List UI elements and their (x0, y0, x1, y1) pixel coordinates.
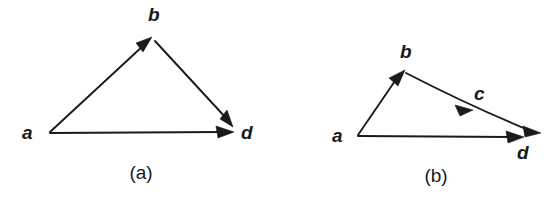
edge-a-to-b-line (358, 78, 397, 135)
vector-triangle-figure: a b d (a) c (0, 0, 558, 203)
edge-a-to-d-panel-b (358, 131, 524, 143)
arrowhead-b-panel-b (389, 70, 405, 86)
edge-a-to-b-panel-b (358, 70, 405, 135)
panel-a: a b d (a) (22, 4, 253, 183)
node-label-d-panel-a: d (241, 122, 253, 143)
edge-a-to-d-line (358, 136, 510, 137)
panel-b: c a b d (b) (332, 41, 541, 186)
arrowhead-c-mid-panel-b (455, 105, 473, 116)
edge-label-c-panel-b: c (474, 83, 485, 104)
edge-a-to-d-panel-a (50, 126, 234, 138)
panel-caption-a: (a) (129, 162, 152, 183)
edge-a-to-b-panel-a (50, 37, 152, 132)
node-label-a-panel-b: a (332, 125, 343, 146)
edge-b-to-d-panel-b: c (406, 73, 541, 137)
panel-caption-b: (b) (424, 165, 447, 186)
node-label-a-panel-a: a (22, 122, 33, 143)
edge-a-to-b-line (50, 45, 144, 132)
arrowhead-d-upper-panel-b (523, 126, 541, 137)
arrowhead-d-lower-panel-a (216, 126, 234, 138)
edge-b-to-d-panel-a (155, 41, 233, 127)
node-label-b-panel-a: b (148, 4, 160, 25)
edge-a-to-d-line (50, 132, 221, 133)
figure-root: a b d (a) c (0, 0, 558, 203)
node-label-b-panel-b: b (400, 41, 412, 62)
edge-b-to-d-line (155, 41, 226, 118)
node-label-d-panel-b: d (517, 142, 529, 163)
edge-b-to-d-line (406, 73, 531, 131)
